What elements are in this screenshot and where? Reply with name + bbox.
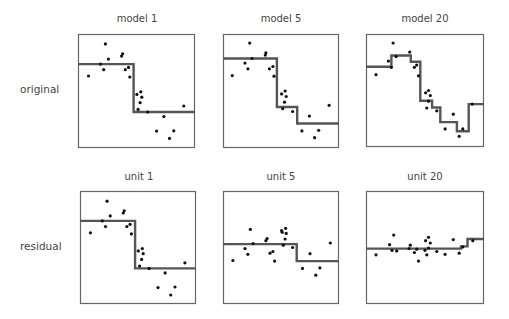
row-label-original: original: [20, 83, 80, 95]
data-point: [285, 232, 288, 235]
data-point: [246, 253, 249, 256]
data-point: [87, 74, 90, 77]
data-point: [128, 75, 131, 78]
data-point: [395, 55, 398, 58]
data-point: [172, 129, 175, 132]
plot-frame: [224, 35, 339, 148]
data-point: [264, 239, 267, 242]
step-function-line: [223, 244, 339, 261]
data-point: [409, 244, 412, 247]
data-point: [231, 259, 234, 262]
data-point: [101, 219, 104, 222]
data-point: [308, 252, 311, 255]
data-point: [104, 225, 107, 228]
data-point: [107, 58, 110, 61]
plot-model-20: [366, 34, 484, 147]
data-point: [248, 42, 251, 45]
data-point: [452, 238, 455, 241]
data-point: [392, 41, 395, 44]
plot-area: [78, 34, 195, 148]
data-point: [291, 246, 294, 249]
data-point: [106, 200, 109, 203]
data-point: [246, 67, 249, 70]
data-point: [390, 249, 393, 252]
panel-title-model-1: model 1: [77, 13, 197, 24]
data-point: [148, 267, 151, 270]
data-point: [392, 234, 395, 237]
plot-frame: [367, 35, 484, 147]
data-point: [413, 251, 416, 254]
data-point: [417, 74, 420, 77]
data-point: [249, 228, 252, 231]
step-function-line: [80, 221, 196, 269]
row-label-residual: residual: [20, 240, 80, 252]
data-point: [109, 214, 112, 217]
panel-title-unit-1: unit 1: [79, 171, 199, 182]
data-point: [329, 241, 332, 244]
data-point: [137, 108, 140, 111]
data-point: [268, 252, 271, 255]
data-point: [425, 106, 428, 109]
data-point: [417, 260, 420, 263]
data-point: [129, 223, 132, 226]
data-point: [300, 129, 303, 132]
data-point: [142, 252, 145, 255]
data-point: [273, 260, 276, 263]
data-point: [243, 247, 246, 250]
data-point: [313, 136, 316, 139]
plot-unit-5: [223, 191, 339, 304]
data-point: [250, 57, 253, 60]
data-point: [124, 68, 127, 71]
data-point: [281, 107, 284, 110]
data-point: [104, 42, 107, 45]
data-point: [471, 103, 474, 106]
data-point: [374, 73, 377, 76]
plot-frame: [224, 192, 339, 304]
data-point: [291, 110, 294, 113]
data-point: [130, 232, 133, 235]
data-point: [162, 115, 165, 118]
data-point: [471, 239, 474, 242]
data-point: [168, 137, 171, 140]
plot-frame: [81, 192, 196, 304]
data-point: [138, 265, 141, 268]
data-point: [268, 67, 271, 70]
data-point: [271, 65, 274, 68]
data-point: [328, 104, 331, 107]
plot-model-1: [78, 34, 195, 148]
data-point: [284, 227, 287, 230]
data-point: [99, 63, 102, 66]
data-point: [283, 101, 286, 104]
data-point: [231, 74, 234, 77]
data-point: [125, 225, 128, 228]
plot-frame: [79, 35, 195, 148]
data-point: [423, 249, 426, 252]
data-point: [271, 250, 274, 253]
panel-title-unit-20: unit 20: [365, 171, 485, 182]
data-point: [146, 110, 149, 113]
data-point: [169, 293, 172, 296]
data-point: [387, 60, 390, 63]
data-point: [284, 89, 287, 92]
data-point: [395, 249, 398, 252]
plot-area: [223, 34, 339, 148]
step-function-line: [78, 64, 195, 112]
data-point: [415, 64, 418, 67]
data-point: [243, 62, 246, 65]
data-point: [408, 247, 411, 250]
data-point: [282, 244, 285, 247]
data-point: [127, 66, 130, 69]
data-point: [137, 249, 140, 252]
panel-title-unit-5: unit 5: [221, 171, 341, 182]
data-point: [140, 96, 143, 99]
data-point: [427, 247, 430, 250]
data-point: [427, 236, 430, 239]
data-point: [461, 127, 464, 130]
data-point: [314, 274, 317, 277]
data-point: [281, 231, 284, 234]
data-point: [272, 75, 275, 78]
data-point: [444, 127, 447, 130]
data-point: [285, 95, 288, 98]
data-point: [458, 135, 461, 138]
data-point: [280, 92, 283, 95]
